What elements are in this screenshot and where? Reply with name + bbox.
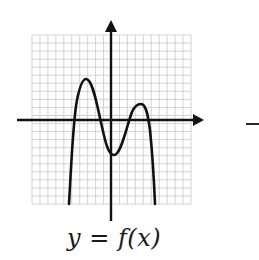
graph-canvas bbox=[0, 0, 259, 260]
trailing-dash-mark bbox=[246, 123, 259, 125]
y-axis-arrow-icon bbox=[105, 20, 117, 32]
function-graph-figure: y = f(x) bbox=[0, 0, 259, 260]
x-axis-arrow-icon bbox=[193, 114, 204, 126]
graph-caption: y = f(x) bbox=[54, 224, 174, 252]
